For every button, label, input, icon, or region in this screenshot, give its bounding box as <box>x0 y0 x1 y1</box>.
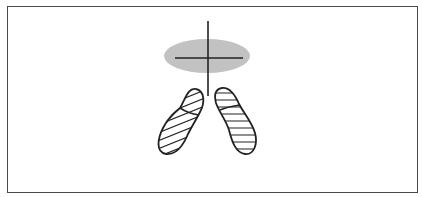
right-footprint <box>205 88 265 154</box>
left-footprint <box>150 78 215 168</box>
sway-ellipse <box>164 39 250 73</box>
diagram-canvas <box>0 0 422 197</box>
footprint-diagram <box>0 0 422 197</box>
crosshair-icon <box>175 21 243 96</box>
